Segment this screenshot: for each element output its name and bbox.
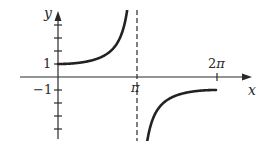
- curve-left-branch: [58, 0, 132, 64]
- y-tick-label-1: 1: [43, 57, 51, 70]
- x-axis-arrow-icon: [242, 74, 252, 81]
- curve-right-branch: [141, 90, 216, 159]
- x-axis-label: x: [248, 83, 256, 97]
- y-axis-arrow-icon: [55, 11, 62, 21]
- y-tick-label-neg1: −1: [33, 83, 52, 96]
- x-tick-label-pi: π: [131, 81, 140, 94]
- y-axis-label: y: [44, 6, 52, 20]
- x-tick-label-2pi-sym: π: [216, 56, 225, 71]
- x-tick-label-2pi: 2π: [208, 57, 225, 70]
